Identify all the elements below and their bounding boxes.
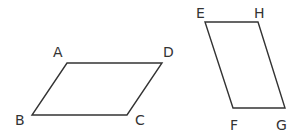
parallelogram-efgh <box>205 22 285 108</box>
vertex-label-e: E <box>196 5 205 21</box>
parallelogram-abcd <box>32 63 162 115</box>
vertex-label-a: A <box>53 44 63 60</box>
vertex-label-h: H <box>254 5 265 21</box>
vertex-label-c: C <box>135 112 145 128</box>
vertex-label-d: D <box>163 44 174 60</box>
vertex-label-g: G <box>276 117 287 133</box>
diagram-canvas: A D C B E H G F <box>0 0 302 134</box>
vertex-label-b: B <box>15 112 25 128</box>
vertex-label-f: F <box>230 117 238 133</box>
